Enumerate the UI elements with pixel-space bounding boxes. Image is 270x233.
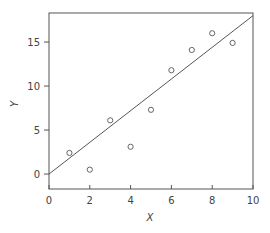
data-point xyxy=(87,167,92,172)
data-point xyxy=(169,68,174,73)
y-tick-label: 5 xyxy=(34,125,40,136)
axis-ticks: 0246810051015 xyxy=(27,37,259,206)
data-point xyxy=(148,107,153,112)
data-points xyxy=(67,31,235,173)
data-point xyxy=(128,144,133,149)
data-point xyxy=(67,150,72,155)
scatter-chart: 0246810051015 X Y xyxy=(0,0,270,233)
x-tick-label: 6 xyxy=(168,195,174,206)
data-point xyxy=(189,47,194,52)
y-tick-label: 15 xyxy=(27,37,40,48)
y-tick-label: 0 xyxy=(34,169,40,180)
x-axis-label: X xyxy=(146,212,155,223)
x-tick-label: 0 xyxy=(46,195,52,206)
data-point xyxy=(230,40,235,45)
data-point xyxy=(210,31,215,36)
data-point xyxy=(108,118,113,123)
x-tick-label: 4 xyxy=(127,195,133,206)
x-tick-label: 2 xyxy=(87,195,93,206)
fitted-line xyxy=(49,16,253,174)
y-axis-label: Y xyxy=(9,100,20,107)
regression-line xyxy=(49,16,253,174)
x-tick-label: 8 xyxy=(209,195,215,206)
y-tick-label: 10 xyxy=(27,81,40,92)
x-tick-label: 10 xyxy=(247,195,260,206)
